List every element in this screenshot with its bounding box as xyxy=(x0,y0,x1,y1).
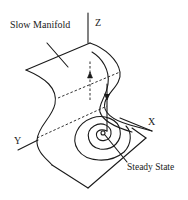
steady-state-label: Steady State xyxy=(127,163,174,173)
steady-state-point xyxy=(101,131,105,135)
plane-back-right-edge xyxy=(132,128,146,138)
manifold-right-fold xyxy=(90,43,152,131)
slow-manifold-diagram: Slow Manifold Z X Y Steady State xyxy=(0,0,188,200)
z-axis-label: Z xyxy=(95,18,101,28)
manifold-tick xyxy=(47,43,68,67)
arrow-up-icon xyxy=(88,72,93,78)
plane-front-left-edge xyxy=(52,165,88,188)
x-axis-label: X xyxy=(148,117,155,127)
steady-state-spiral xyxy=(75,117,130,160)
y-axis-label: Y xyxy=(14,136,21,146)
arrow-down-icon xyxy=(105,94,110,100)
manifold-top-edge xyxy=(26,43,90,70)
slow-manifold-label: Slow Manifold xyxy=(10,20,70,30)
manifold-left-edge xyxy=(26,70,55,165)
